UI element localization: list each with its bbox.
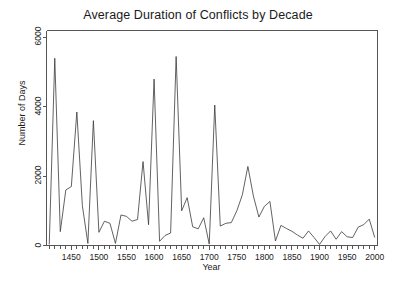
- y-tick-label: 4000: [33, 89, 43, 123]
- data-line: [49, 57, 374, 245]
- y-tick-label: 6000: [33, 19, 43, 53]
- data-series-line: [49, 57, 374, 245]
- y-tick-label: 0: [33, 228, 43, 262]
- x-tick-label: 2000: [358, 252, 392, 262]
- plot-area: [0, 0, 396, 281]
- y-tick-label: 2000: [33, 158, 43, 192]
- chart-figure: Average Duration of Conflicts by Decade …: [0, 0, 396, 281]
- plot-frame: [47, 31, 378, 246]
